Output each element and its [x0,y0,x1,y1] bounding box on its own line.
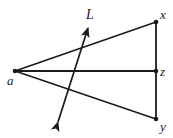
segment-a-y [15,71,156,119]
figure-canvas: a x z y L [0,0,173,138]
point-y-dot [154,117,159,122]
segment-a-x [15,22,156,71]
point-label-z: z [159,64,165,79]
line-label-L: L [85,7,94,22]
point-label-y: y [158,119,166,134]
point-z-dot [154,69,159,74]
point-x-dot [154,20,159,25]
line-L [58,28,88,122]
point-label-a: a [7,73,14,88]
point-label-x: x [159,7,166,22]
geometry-figure: a x z y L [0,0,173,138]
